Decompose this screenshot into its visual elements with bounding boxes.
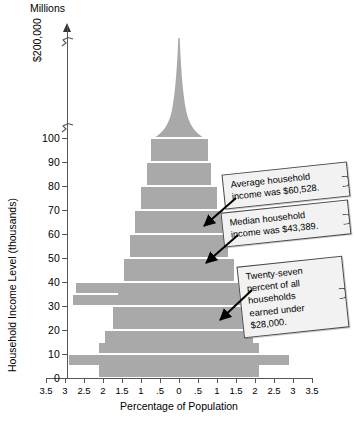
y-tick — [62, 258, 68, 259]
bar-70-75-b — [124, 271, 234, 281]
axis-top-label: Millions — [30, 2, 65, 14]
x-tick — [236, 378, 237, 383]
axis-break-label: $200,000 — [31, 18, 43, 62]
y-tick-label: 30 — [48, 300, 60, 312]
x-tick — [179, 378, 180, 383]
x-tick — [160, 378, 161, 383]
y-tick — [62, 138, 68, 139]
x-tick-label: 3 — [290, 385, 295, 396]
y-axis-line — [67, 26, 68, 378]
callout-arrow-median — [198, 233, 240, 271]
y-tick — [62, 354, 68, 355]
x-axis-title: Percentage of Population — [120, 400, 238, 412]
y-tick — [62, 162, 68, 163]
bar-50-55 — [99, 343, 259, 353]
x-tick — [274, 378, 275, 383]
x-tick-label: 2 — [252, 385, 257, 396]
x-tick-label: 1.5 — [229, 385, 242, 396]
x-tick-label: .5 — [194, 385, 202, 396]
x-tick — [103, 378, 104, 383]
x-tick — [46, 378, 47, 383]
y-tick-label: 20 — [48, 324, 60, 336]
x-tick-label: 2.5 — [267, 385, 280, 396]
x-tick — [141, 378, 142, 383]
callout-arrow-average — [196, 196, 238, 234]
y-tick-label: 10 — [48, 348, 60, 360]
x-tick — [217, 378, 218, 383]
x-tick — [293, 378, 294, 383]
x-tick-label: 1 — [138, 385, 143, 396]
axis-break-upper-icon — [60, 36, 76, 48]
income-pyramid-chart: Millions $200,000 Household Income Level… — [0, 0, 355, 421]
callout-notch-icon — [338, 287, 346, 299]
x-tick — [198, 378, 199, 383]
x-tick — [312, 378, 313, 383]
bar-10-15 — [69, 355, 290, 365]
callout-notch-icon — [342, 213, 350, 225]
x-tick — [84, 378, 85, 383]
x-tick-label: 1.5 — [115, 385, 128, 396]
x-tick-label: 3 — [62, 385, 67, 396]
y-tick-label: 80 — [48, 180, 60, 192]
axis-break-lower-icon — [60, 122, 76, 134]
x-tick — [122, 378, 123, 383]
bar-95-100-a — [151, 139, 208, 149]
y-tick-label: 60 — [48, 228, 60, 240]
y-tick-label: 50 — [48, 252, 60, 264]
x-tick-label: 2 — [100, 385, 105, 396]
callout-arrow-under28000 — [212, 288, 254, 328]
income-spire — [139, 38, 219, 138]
x-tick-label: 3.5 — [39, 385, 52, 396]
y-tick-label: 70 — [48, 204, 60, 216]
y-tick-label: 100 — [42, 132, 60, 144]
bar-90-95-a — [147, 163, 212, 173]
y-tick — [62, 210, 68, 211]
y-tick — [62, 306, 68, 307]
bar-95-100-b — [151, 151, 208, 161]
y-tick — [62, 186, 68, 187]
x-tick-label: 0 — [176, 385, 181, 396]
x-tick — [255, 378, 256, 383]
y-tick — [62, 282, 68, 283]
y-tick-label: 40 — [48, 276, 60, 288]
y-axis-title: Household Income Level (thousands) — [6, 198, 18, 372]
y-tick-label: 0 — [54, 372, 60, 384]
x-tick — [65, 378, 66, 383]
bar-90-95-b — [147, 175, 212, 185]
y-tick — [62, 330, 68, 331]
x-tick-label: 3.5 — [305, 385, 318, 396]
bar-0-5 — [122, 367, 236, 377]
x-tick-label: 1 — [214, 385, 219, 396]
y-tick-label: 90 — [48, 156, 60, 168]
y-tick — [62, 234, 68, 235]
x-tick-label: .5 — [156, 385, 164, 396]
x-tick-label: 2.5 — [77, 385, 90, 396]
callout-notch-icon — [341, 175, 349, 187]
bar-55-60 — [105, 331, 253, 341]
